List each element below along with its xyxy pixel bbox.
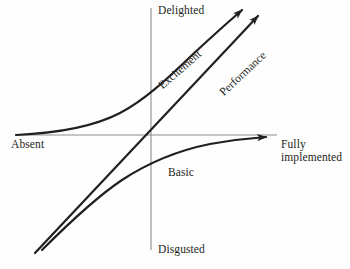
axis-label-fully-implemented: Fullyimplemented [281, 138, 342, 163]
axis-label-disgusted: Disgusted [158, 243, 205, 256]
basic-curve [42, 137, 266, 250]
axis-label-delighted: Delighted [158, 4, 204, 17]
excitement-curve [16, 10, 242, 135]
axis-label-fully-line2: implemented [281, 151, 342, 163]
kano-model-figure: Delighted Absent Fullyimplemented Disgus… [0, 0, 350, 269]
curve-label-basic: Basic [168, 166, 194, 179]
axis-label-absent: Absent [11, 138, 44, 151]
kano-diagram-canvas [0, 0, 350, 269]
axis-label-fully-line1: Fully [281, 138, 306, 150]
